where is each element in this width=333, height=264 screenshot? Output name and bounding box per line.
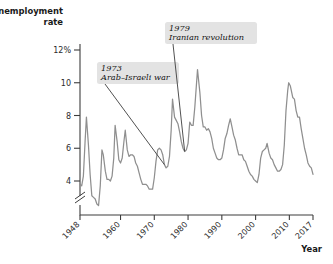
unemployment-rate-chart: Unemployment rate Year 12%10864 19481960… xyxy=(0,0,333,264)
x-tick-label: 1948 xyxy=(61,220,82,241)
y-axis-tick-labels: 12%10864 xyxy=(53,46,80,186)
x-tick-label: 1980 xyxy=(169,220,190,241)
x-axis-line xyxy=(80,205,313,215)
annotation-1973: 1973Arab–Israeli war xyxy=(97,62,179,165)
x-axis-tick-labels: 19481960197019801990200020102017 xyxy=(61,215,315,241)
x-tick-label: 1990 xyxy=(202,220,223,241)
chart-annotations: 1973Arab–Israeli war1979Iranian revoluti… xyxy=(97,22,257,165)
axis-break-mark xyxy=(75,196,85,203)
y-tick-label: 10 xyxy=(61,79,71,88)
y-tick-label: 4 xyxy=(66,177,71,186)
y-axis-title-line2: rate xyxy=(44,17,64,27)
annotation-event: Iranian revolution xyxy=(168,32,244,42)
x-tick-label: 1970 xyxy=(135,220,156,241)
x-tick-label: 2010 xyxy=(270,220,291,241)
x-tick-label: 2017 xyxy=(294,220,315,241)
y-axis-title-line1: Unemployment xyxy=(0,6,63,16)
unemployment-line xyxy=(80,70,313,206)
y-tick-label: 6 xyxy=(66,144,71,153)
annotation-leader-line xyxy=(173,44,185,152)
unemployment-series xyxy=(80,70,313,206)
y-tick-label: 8 xyxy=(66,112,71,121)
x-axis-title: Year xyxy=(300,244,323,254)
x-tick-label: 1960 xyxy=(101,220,122,241)
annotation-1979: 1979Iranian revolution xyxy=(165,22,257,152)
annotation-event: Arab–Israeli war xyxy=(100,72,171,82)
x-tick-label: 2000 xyxy=(236,220,257,241)
y-tick-label: 12% xyxy=(53,46,71,55)
